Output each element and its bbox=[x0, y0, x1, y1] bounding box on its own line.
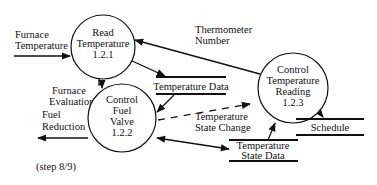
svg-text:Furnace: Furnace bbox=[52, 85, 86, 96]
svg-text:Temperature: Temperature bbox=[267, 75, 320, 86]
store-temperature-state-data[interactable]: Temperature State Data bbox=[229, 140, 298, 161]
flow-furnace-temperature: Furnace Temperature bbox=[14, 29, 70, 56]
process-control-temperature-reading[interactable]: Control Temperature Reading 1.2.3 bbox=[258, 53, 328, 123]
svg-text:1.2.3: 1.2.3 bbox=[283, 97, 304, 108]
svg-text:Reduction: Reduction bbox=[42, 121, 86, 132]
svg-text:Temperature: Temperature bbox=[15, 40, 68, 51]
svg-text:Fuel: Fuel bbox=[42, 109, 61, 120]
svg-text:Valve: Valve bbox=[110, 116, 134, 127]
svg-text:Fuel: Fuel bbox=[113, 105, 132, 116]
svg-text:Furnace: Furnace bbox=[15, 29, 49, 40]
flow-state-data-to-reading bbox=[268, 123, 275, 140]
svg-text:Temperature: Temperature bbox=[195, 111, 248, 122]
svg-text:1.2.2: 1.2.2 bbox=[112, 127, 133, 138]
svg-text:State Data: State Data bbox=[241, 150, 285, 161]
flow-temperature-data-to-valve bbox=[157, 95, 174, 112]
svg-text:Control: Control bbox=[106, 94, 138, 105]
step-caption: (step 8/9) bbox=[36, 161, 76, 173]
svg-text:Number: Number bbox=[195, 35, 230, 46]
store-schedule[interactable]: Schedule bbox=[296, 119, 364, 135]
svg-text:Schedule: Schedule bbox=[311, 122, 350, 133]
svg-text:Control: Control bbox=[277, 64, 309, 75]
svg-text:Temperature: Temperature bbox=[77, 38, 130, 49]
flow-to-temperature-data bbox=[130, 60, 165, 76]
flow-thermometer-number: Thermometer Number bbox=[135, 24, 260, 74]
process-control-fuel-valve[interactable]: Control Fuel Valve 1.2.2 bbox=[88, 84, 156, 152]
flow-fuel-reduction: Fuel Reduction bbox=[38, 109, 88, 138]
svg-text:Reading: Reading bbox=[276, 86, 312, 97]
process-read-temperature[interactable]: Read Temperature 1.2.1 bbox=[71, 15, 135, 79]
store-temperature-data[interactable]: Temperature Data bbox=[153, 77, 229, 94]
svg-text:Read: Read bbox=[92, 27, 114, 38]
flow-state-data-bidirectional bbox=[157, 138, 229, 149]
data-flow-diagram: Furnace Temperature Thermometer Number F… bbox=[0, 0, 377, 185]
flow-temperature-state-change: Temperature State Change bbox=[158, 104, 251, 133]
svg-text:Thermometer: Thermometer bbox=[195, 24, 253, 35]
svg-text:State Change: State Change bbox=[195, 122, 251, 133]
svg-text:1.2.1: 1.2.1 bbox=[93, 49, 114, 60]
svg-text:Temperature Data: Temperature Data bbox=[153, 81, 229, 92]
svg-text:Evaluation: Evaluation bbox=[49, 96, 95, 107]
